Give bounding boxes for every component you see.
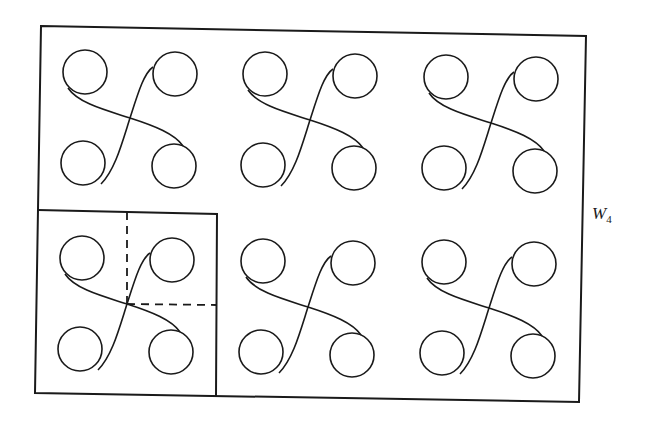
- w4-label-subscript: 4: [606, 213, 612, 225]
- cell-r2-c3: [420, 240, 556, 378]
- outer-frame: [35, 26, 586, 402]
- cell-r1-c2: [241, 52, 377, 190]
- diagram-canvas: [0, 0, 651, 430]
- cell-r2-c2: [239, 239, 375, 377]
- cell-r1-c3: [422, 55, 558, 193]
- cell-r1-c1: [61, 50, 197, 188]
- dashed-horizontal-line: [127, 304, 216, 305]
- w4-label-main: W: [592, 204, 606, 223]
- w4-label: W4: [592, 204, 612, 225]
